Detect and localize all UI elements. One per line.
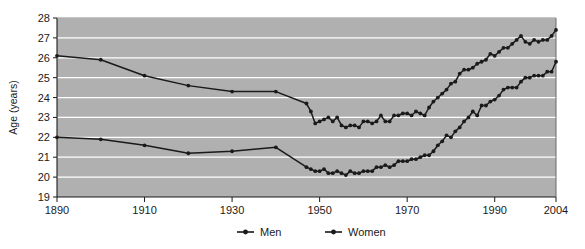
data-point [497,50,501,54]
data-point [383,120,387,124]
data-point [484,104,488,108]
data-point [331,120,335,124]
data-point [427,106,431,110]
data-point [55,135,59,139]
legend-marker-icon [243,230,248,235]
data-point [502,46,506,50]
data-point [418,112,422,116]
data-point [423,153,427,157]
data-point [143,74,147,78]
data-point [480,60,484,64]
data-point [379,165,383,169]
data-point [405,159,409,163]
data-point [515,38,519,42]
data-point [401,112,405,116]
data-point [370,122,374,126]
data-point [432,100,436,104]
data-point [186,84,190,88]
data-point [414,157,418,161]
data-point [537,74,541,78]
svg-text:1950: 1950 [307,204,331,216]
data-point [497,94,501,98]
data-point [340,124,344,128]
data-point [528,76,532,80]
data-point [541,74,545,78]
data-point [488,52,492,56]
data-point [436,143,440,147]
data-point [186,151,190,155]
data-point [405,112,409,116]
data-point [427,153,431,157]
svg-text:19: 19 [38,191,50,203]
data-point [410,114,414,118]
data-point [305,102,309,106]
svg-text:1930: 1930 [220,204,244,216]
data-point [532,74,536,78]
data-point [375,165,379,169]
data-point [475,114,479,118]
data-point [480,104,484,108]
svg-text:1890: 1890 [45,204,69,216]
data-point [545,38,549,42]
data-point [519,34,523,38]
data-point [99,58,103,62]
line-chart: 19202122232425262728 1890191019301950197… [0,0,585,249]
svg-text:26: 26 [38,52,50,64]
svg-text:25: 25 [38,72,50,84]
data-point [392,163,396,167]
data-point [348,169,352,173]
data-point [462,68,466,72]
data-point [313,169,317,173]
data-point [418,155,422,159]
data-point [309,167,313,171]
data-point [467,68,471,72]
svg-text:27: 27 [38,32,50,44]
data-point [515,86,519,90]
data-point [55,54,59,58]
data-point [383,163,387,167]
data-point [274,145,278,149]
svg-text:1970: 1970 [395,204,419,216]
data-point [344,173,348,177]
data-point [471,66,475,70]
data-point [502,88,506,92]
data-point [510,86,514,90]
data-point [519,80,523,84]
data-point [375,120,379,124]
data-point [401,159,405,163]
svg-text:1910: 1910 [132,204,156,216]
data-point [274,90,278,94]
data-point [348,124,352,128]
data-point [99,137,103,141]
data-point [379,114,383,118]
data-point [326,171,330,175]
data-point [449,135,453,139]
data-point [318,120,322,124]
data-point [506,86,510,90]
data-point [344,125,348,129]
data-point [230,90,234,94]
data-point [532,38,536,42]
data-point [445,133,449,137]
data-point [458,72,462,76]
data-point [545,70,549,74]
svg-text:23: 23 [38,111,50,123]
data-point [305,165,309,169]
data-point [366,120,370,124]
data-point [554,60,558,64]
svg-text:1990: 1990 [482,204,506,216]
svg-text:24: 24 [38,92,50,104]
data-point [353,124,357,128]
data-point [397,114,401,118]
data-point [357,125,361,129]
data-point [445,88,449,92]
svg-text:21: 21 [38,151,50,163]
data-point [537,40,541,44]
svg-text:2004: 2004 [544,204,568,216]
data-point [453,129,457,133]
legend-label: Women [348,226,386,238]
y-axis-title: Age (years) [7,80,19,134]
data-point [335,169,339,173]
data-point [362,120,366,124]
data-point [340,171,344,175]
